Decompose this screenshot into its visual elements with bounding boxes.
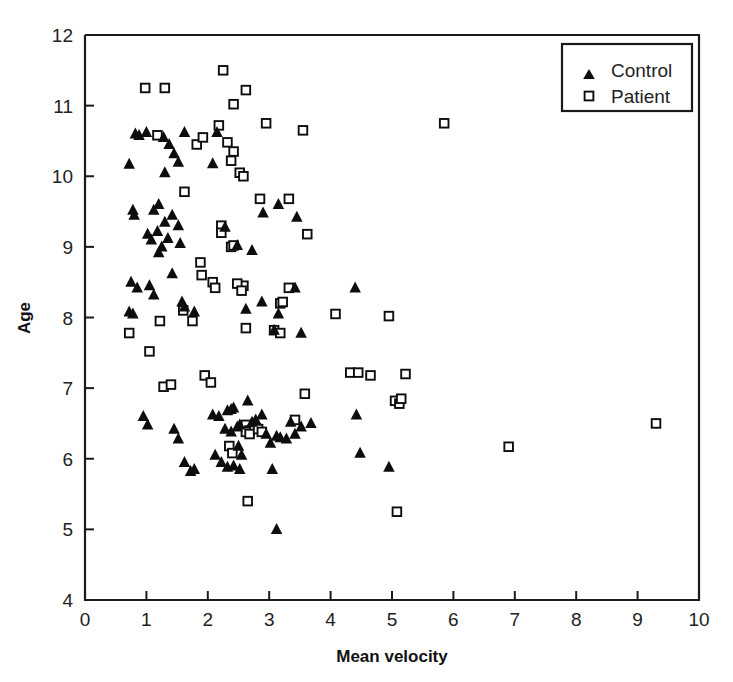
control-point: [267, 463, 279, 474]
patient-point: [262, 119, 271, 128]
control-point: [295, 327, 307, 338]
legend: Control Patient: [562, 44, 692, 111]
control-point: [257, 207, 269, 218]
y-tick-label-9: 9: [62, 237, 73, 258]
patient-point: [301, 389, 310, 398]
patient-point: [243, 497, 252, 506]
patient-point: [167, 380, 176, 389]
control-point: [168, 423, 180, 434]
patient-point: [440, 119, 449, 128]
y-axis-ticks: [85, 35, 94, 600]
patient-point: [197, 271, 206, 280]
control-point: [141, 126, 153, 137]
y-tick-label-4: 4: [62, 590, 73, 611]
patient-point: [354, 368, 363, 377]
control-point: [354, 447, 366, 458]
control-point: [256, 296, 268, 307]
control-point: [291, 211, 303, 222]
control-point: [207, 157, 219, 168]
patient-point: [245, 430, 254, 439]
patient-point: [401, 370, 410, 379]
control-point: [246, 244, 258, 255]
x-axis-tick-labels: 012345678910: [80, 609, 710, 630]
x-tick-label-9: 9: [632, 609, 643, 630]
patient-point: [223, 138, 232, 147]
control-point: [209, 449, 221, 460]
control-point: [305, 417, 317, 428]
y-tick-label-12: 12: [52, 25, 73, 46]
patient-point: [141, 84, 150, 93]
patient-point: [242, 324, 251, 333]
x-tick-label-8: 8: [571, 609, 582, 630]
patient-point: [285, 195, 294, 204]
patient-point: [397, 394, 406, 403]
series-control-markers: [123, 126, 394, 534]
patient-point: [299, 126, 308, 135]
control-point: [273, 198, 285, 209]
x-tick-label-5: 5: [387, 609, 398, 630]
y-tick-label-8: 8: [62, 308, 73, 329]
patient-point: [278, 298, 287, 307]
x-tick-label-2: 2: [203, 609, 214, 630]
patient-point: [227, 156, 236, 165]
y-tick-label-6: 6: [62, 449, 73, 470]
x-tick-label-6: 6: [448, 609, 459, 630]
patient-point: [229, 100, 238, 109]
patient-point: [219, 66, 228, 75]
patient-point: [211, 284, 220, 293]
legend-marker-patient: [585, 92, 594, 101]
control-point: [173, 219, 185, 230]
x-tick-label-7: 7: [510, 609, 521, 630]
patient-point: [156, 317, 165, 326]
control-point: [125, 276, 137, 287]
patient-point: [145, 347, 154, 356]
patient-point: [196, 258, 205, 267]
control-point: [179, 126, 191, 137]
patient-point: [652, 419, 661, 428]
patient-point: [239, 172, 248, 181]
series-patient-markers: [125, 66, 660, 516]
patient-point: [331, 310, 340, 319]
control-point: [271, 523, 283, 534]
control-point: [144, 279, 156, 290]
patient-point: [199, 133, 208, 142]
control-point: [159, 166, 171, 177]
control-point: [189, 305, 201, 316]
x-tick-label-0: 0: [80, 609, 91, 630]
patient-point: [366, 371, 375, 380]
control-point: [166, 209, 178, 220]
scatter-plot-figure: 012345678910 456789101112 Mean velocity …: [0, 0, 733, 682]
control-point: [273, 308, 285, 319]
x-axis-title: Mean velocity: [336, 647, 448, 666]
plot-canvas: 012345678910 456789101112 Mean velocity …: [0, 0, 733, 682]
legend-label-control: Control: [611, 60, 672, 81]
patient-point: [256, 195, 265, 204]
control-point: [174, 237, 186, 248]
patient-point: [229, 147, 238, 156]
patient-point: [393, 507, 402, 516]
control-point: [351, 409, 363, 420]
patient-point: [242, 86, 251, 95]
x-axis-ticks: [85, 591, 699, 600]
y-tick-label-10: 10: [52, 166, 73, 187]
patient-point: [207, 378, 216, 387]
control-point: [173, 433, 185, 444]
patient-point: [161, 84, 170, 93]
patient-point: [180, 187, 189, 196]
x-tick-label-10: 10: [688, 609, 709, 630]
control-point: [349, 281, 361, 292]
y-tick-label-5: 5: [62, 519, 73, 540]
patient-point: [188, 317, 197, 326]
y-axis-tick-labels: 456789101112: [52, 25, 74, 611]
control-point: [383, 461, 395, 472]
patient-point: [237, 286, 246, 295]
patient-point: [125, 329, 134, 338]
y-axis-title: Age: [15, 302, 34, 334]
x-tick-label-3: 3: [264, 609, 275, 630]
control-point: [240, 303, 252, 314]
legend-label-patient: Patient: [611, 86, 671, 107]
control-point: [162, 232, 174, 243]
patient-point: [303, 230, 312, 239]
control-point: [256, 409, 268, 420]
x-tick-label-4: 4: [325, 609, 336, 630]
